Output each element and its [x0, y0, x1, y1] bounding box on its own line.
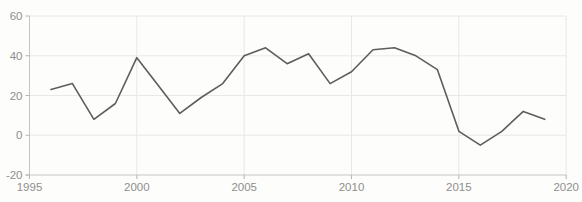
x-tick-label: 2000: [124, 181, 150, 193]
y-tick-label: -20: [6, 169, 23, 181]
x-tick-label: 2010: [339, 181, 365, 193]
x-tick-label: 2005: [231, 181, 257, 193]
y-tick-label: 40: [10, 50, 23, 62]
x-tick-label: 2015: [446, 181, 472, 193]
line-chart: -200204060199520002005201020152020: [0, 0, 582, 202]
x-tick-label: 1995: [17, 181, 43, 193]
y-tick-label: 60: [10, 10, 23, 22]
y-tick-label: 20: [10, 90, 23, 102]
y-tick-label: 0: [16, 129, 22, 141]
chart-canvas: -200204060199520002005201020152020: [0, 0, 582, 202]
data-line: [51, 48, 545, 145]
x-tick-label: 2020: [553, 181, 579, 193]
